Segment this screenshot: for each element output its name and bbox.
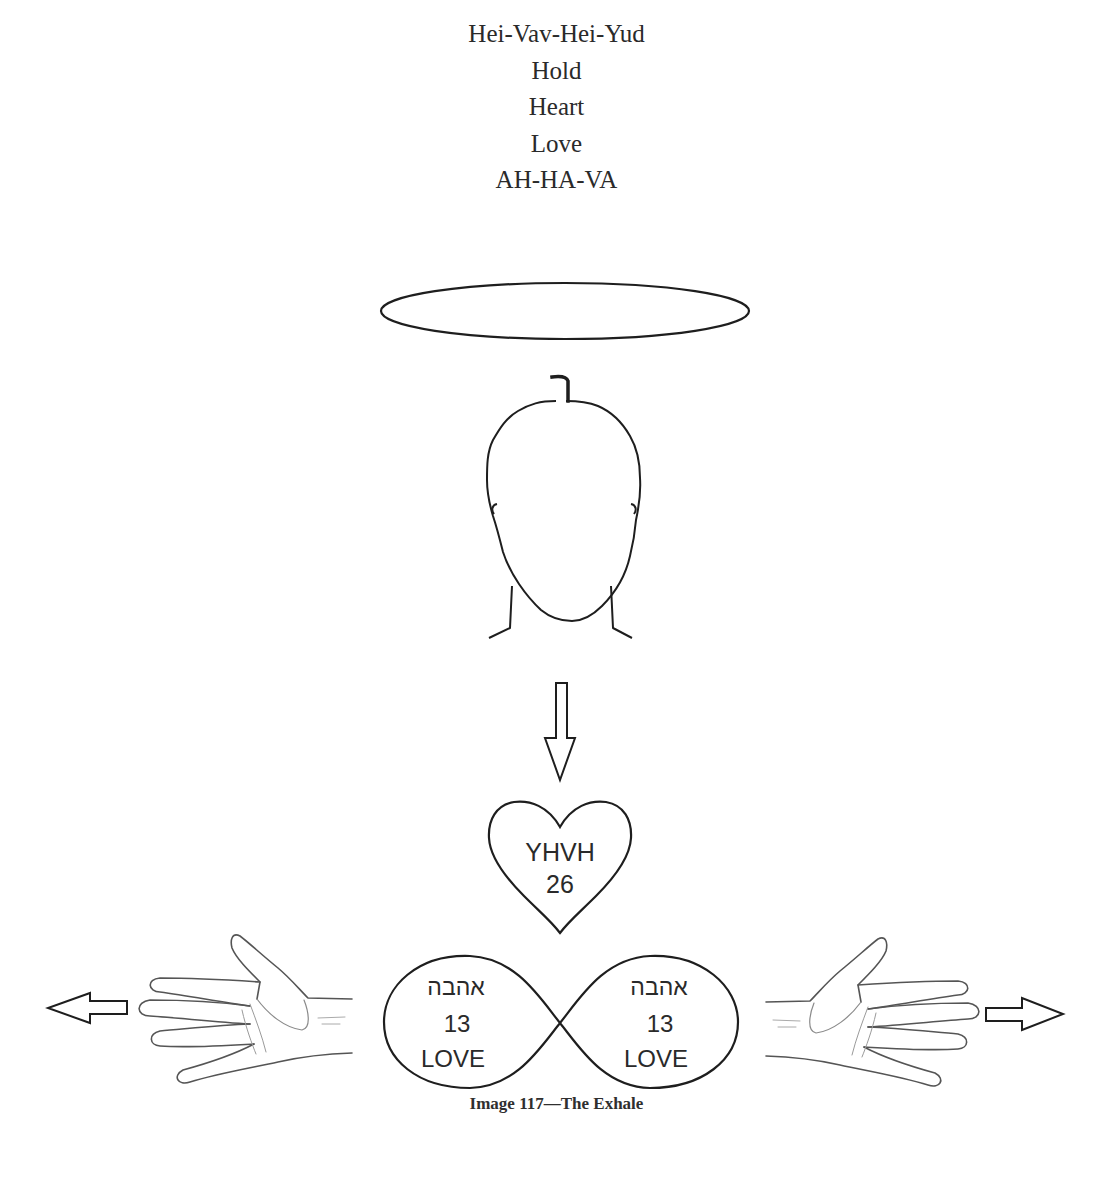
exhale-diagram: YHVH 26 אהבה 13 LOVE אהבה 13 LOVE xyxy=(0,0,1113,1185)
down-arrow-icon xyxy=(545,683,575,780)
left-arrow-icon xyxy=(48,993,127,1023)
hebrew-letter-reish-icon xyxy=(552,377,568,402)
infinity-right-word: LOVE xyxy=(624,1045,688,1072)
left-hand-icon xyxy=(139,935,352,1083)
infinity-left-word: LOVE xyxy=(421,1045,485,1072)
head-outline-icon xyxy=(487,401,640,638)
figure-caption: Image 117—The Exhale xyxy=(0,1094,1113,1114)
right-arrow-icon xyxy=(986,998,1063,1030)
right-hand-icon xyxy=(766,938,979,1086)
infinity-left-number: 13 xyxy=(444,1010,471,1037)
infinity-left-hebrew: אהבה xyxy=(427,974,485,1000)
infinity-right-hebrew: אהבה xyxy=(630,974,688,1000)
heart-shape xyxy=(489,802,631,933)
heart-label-number: 26 xyxy=(546,870,574,898)
halo-ellipse xyxy=(381,283,749,339)
infinity-right-number: 13 xyxy=(647,1010,674,1037)
heart-label-yhvh: YHVH xyxy=(525,838,594,866)
